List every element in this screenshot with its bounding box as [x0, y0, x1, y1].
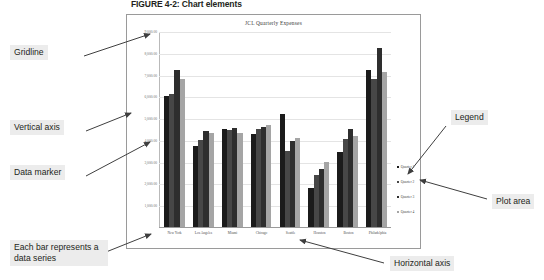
bar-series-container: [160, 32, 391, 227]
data-marker: [324, 162, 329, 227]
annotation-legend: Legend: [451, 110, 488, 125]
annotation-data-series: Each bar represents a data series: [10, 240, 108, 266]
legend-swatch-icon: [397, 181, 399, 183]
x-axis-tick-label: Houston: [305, 229, 334, 241]
chart-window: JCL Quarterly Expenses 1,000.002,000.003…: [126, 14, 421, 249]
annotation-gridline: Gridline: [10, 45, 48, 60]
y-axis-tick-label: 2,000.00: [144, 182, 157, 186]
legend-label: Quarter 4: [401, 210, 415, 214]
data-marker: [266, 125, 271, 227]
bar-group: [304, 32, 333, 227]
horizontal-axis: [159, 227, 391, 228]
bar-group: [218, 32, 247, 227]
data-marker: [180, 79, 185, 227]
y-axis-tick-label: 1,000.00: [144, 204, 157, 208]
bar-group: [189, 32, 218, 227]
data-marker: [353, 136, 358, 227]
bar-group: [362, 32, 391, 227]
figure-caption: FIGURE 4-2: Chart elements: [131, 0, 242, 9]
legend-label: Quarter 3: [401, 195, 415, 199]
bar-group: [160, 32, 189, 227]
y-axis-tick-label: 8,000.00: [144, 52, 157, 56]
legend-swatch-icon: [397, 196, 399, 198]
annotation-vertical-axis: Vertical axis: [10, 120, 64, 135]
x-axis-tick-label: Miami: [218, 229, 247, 241]
legend-item: Quarter 3: [397, 195, 423, 199]
y-axis-tick-label: 7,000.00: [144, 74, 157, 78]
legend-label: Quarter 1: [401, 165, 415, 169]
x-axis-tick-label: Chicago: [247, 229, 276, 241]
y-axis-tick-label: 3,000.00: [144, 161, 157, 165]
data-marker: [382, 72, 387, 227]
x-axis-tick-label: New York: [160, 229, 189, 241]
data-marker: [209, 133, 214, 227]
plot-area: 1,000.002,000.003,000.004,000.005,000.00…: [159, 32, 391, 228]
annotation-data-marker: Data marker: [10, 165, 65, 180]
data-marker: [237, 133, 242, 227]
annotation-horizontal-axis: Horizontal axis: [390, 256, 454, 271]
data-marker: [295, 138, 300, 227]
y-axis-tick-label: 6,000.00: [144, 95, 157, 99]
legend-item: Quarter 1: [397, 165, 423, 169]
legend-swatch-icon: [397, 166, 399, 168]
legend-item: Quarter 4: [397, 210, 423, 214]
legend-swatch-icon: [397, 211, 399, 213]
x-axis-tick-label: Boston: [334, 229, 363, 241]
y-axis-tick-label: 9,000.00: [144, 30, 157, 34]
bar-group: [276, 32, 305, 227]
x-axis-tick-label: Seattle: [276, 229, 305, 241]
annotation-plot-area: Plot area: [492, 194, 534, 209]
bar-group: [333, 32, 362, 227]
legend: Quarter 1Quarter 2Quarter 3Quarter 4: [397, 165, 423, 225]
bar-group: [247, 32, 276, 227]
chart-title: JCL Quarterly Expenses: [127, 20, 420, 26]
x-axis-tick-label: Los Angeles: [189, 229, 218, 241]
y-axis-tick-label: 4,000.00: [144, 139, 157, 143]
legend-item: Quarter 2: [397, 180, 423, 184]
legend-label: Quarter 2: [401, 180, 415, 184]
x-axis-tick-label: Philadelphia: [363, 229, 392, 241]
y-axis-tick-label: 5,000.00: [144, 117, 157, 121]
x-axis-tick-labels: New YorkLos AngelesMiamiChicagoSeattleHo…: [160, 229, 392, 241]
